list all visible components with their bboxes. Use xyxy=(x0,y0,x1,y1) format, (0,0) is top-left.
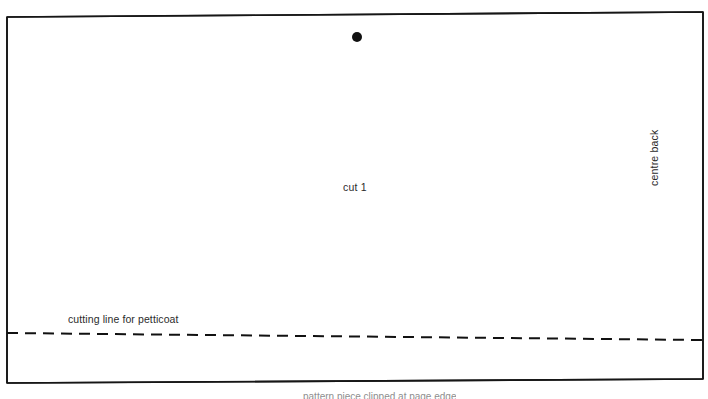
centre-back-label: centre back xyxy=(648,130,660,186)
pattern-dot-marker xyxy=(352,32,362,42)
pattern-sheet: cut 1 centre back cutting line for petti… xyxy=(0,0,708,399)
pattern-outline xyxy=(7,12,703,383)
bottom-clipped-caption: pattern piece clipped at page edge xyxy=(303,391,456,399)
pattern-drawing xyxy=(0,0,708,399)
cut-quantity-label: cut 1 xyxy=(343,181,367,193)
cutting-line-for-petticoat-label: cutting line for petticoat xyxy=(68,313,179,325)
